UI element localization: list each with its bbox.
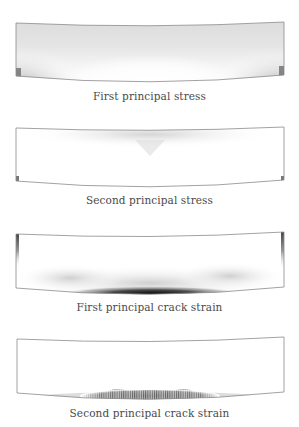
caption-first-principal-stress: First principal stress [0, 90, 299, 102]
panel-first-principal-crack-strain: First principal crack strain [0, 220, 299, 320]
caption-second-principal-stress: Second principal stress [0, 194, 299, 206]
panel-first-principal-stress: First principal stress [0, 0, 299, 110]
caption-first-principal-crack-strain: First principal crack strain [0, 301, 299, 313]
caption-second-principal-crack-strain: Second principal crack strain [0, 407, 299, 419]
panel-second-principal-crack-strain: Second principal crack strain [0, 320, 299, 427]
panel-second-principal-stress: Second principal stress [0, 110, 299, 220]
